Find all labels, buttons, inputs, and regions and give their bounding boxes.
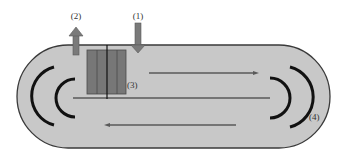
racetrack-body	[17, 45, 330, 148]
outlet-label: (2)	[71, 11, 82, 21]
block-label: (3)	[127, 80, 138, 90]
reflector-label: (4)	[309, 112, 320, 122]
block	[87, 45, 126, 99]
inlet-label: (1)	[133, 11, 144, 21]
racetrack-diagram: (2) (1) (3) (4)	[0, 0, 338, 159]
